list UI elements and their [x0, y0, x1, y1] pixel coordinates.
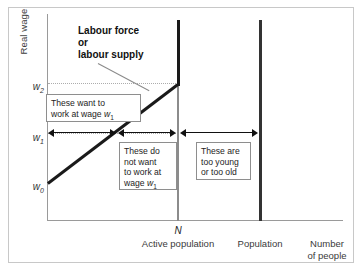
curve-label-line3: labour supply — [78, 49, 144, 61]
measure-arrow-too-young-or-too-old — [180, 128, 258, 137]
note1-line2-subscript: 1 — [110, 113, 114, 120]
x-label-number-of-people-line1: Number — [298, 238, 356, 249]
y-tick-w2-subscript: 2 — [40, 87, 44, 94]
note3-line3: or too old — [201, 167, 246, 178]
measure-arrow-want-to-work — [48, 128, 116, 137]
y-tick-w1-subscript: 1 — [40, 138, 44, 145]
x-axis-line — [47, 220, 343, 221]
note-box-do-not-want-to-work: These do not want to work at wage w1 — [119, 142, 177, 190]
note1-line1: These want to — [51, 98, 136, 109]
note2-line2: not want — [124, 157, 172, 168]
x-label-number-of-people-line2: of people — [298, 250, 356, 261]
arrow-shaft — [185, 132, 253, 133]
arrow-head-right — [110, 129, 116, 137]
arrow-head-right — [252, 129, 258, 137]
x-label-population: Population — [222, 238, 298, 249]
note2-line1: These do — [124, 146, 172, 157]
arrow-shaft — [53, 132, 111, 133]
measure-arrow-do-not-want-to-work — [118, 128, 176, 137]
y-tick-w0-subscript: 0 — [40, 187, 44, 194]
note2-line3: to work at — [124, 167, 172, 178]
y-tick-w0-symbol: w — [33, 181, 40, 192]
note3-line1: These are — [201, 146, 246, 157]
note1-line2-text: work at wage — [51, 109, 104, 119]
note2-line4: wage w1 — [124, 178, 172, 192]
y-tick-w2: w2 — [0, 76, 44, 94]
y-tick-w0: w0 — [0, 176, 44, 194]
labour-supply-figure: Real wage w2 w1 w0 Labour force or labou… — [0, 0, 364, 273]
y-axis-title: Real wage — [18, 0, 29, 64]
note-box-want-to-work: These want to work at wage w1 — [46, 94, 141, 122]
note-box-too-young-or-too-old: These are too young or too old — [196, 142, 251, 180]
note3-line2: too young — [201, 157, 246, 168]
note2-line4-subscript: 1 — [153, 183, 157, 190]
y-tick-w1-symbol: w — [33, 132, 40, 143]
curve-label: Labour force or labour supply — [78, 25, 144, 62]
x-label-active-population: Active population — [131, 238, 225, 249]
vertical-line-population — [259, 20, 262, 221]
x-label-n-symbol: N — [157, 225, 199, 236]
arrow-head-right — [170, 129, 176, 137]
y-tick-w2-symbol: w — [33, 81, 40, 92]
arrow-shaft — [123, 132, 171, 133]
labour-supply-vertical-segment — [177, 20, 180, 86]
y-tick-w1: w1 — [0, 127, 44, 145]
note1-line2: work at wage w1 — [51, 109, 136, 123]
guide-line-w2 — [48, 83, 178, 84]
curve-label-line1: Labour force — [78, 25, 144, 37]
curve-label-line2: or — [78, 37, 144, 49]
note2-line4-text: wage — [124, 178, 147, 188]
vertical-line-active-population — [177, 86, 179, 221]
